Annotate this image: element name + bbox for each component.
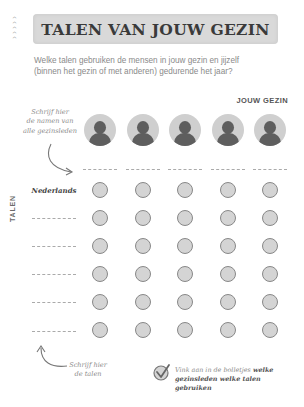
person-body: [89, 133, 111, 146]
person-body: [174, 133, 196, 146]
checkbox-r5-c4[interactable]: [220, 294, 236, 310]
checkbox-r6-c3[interactable]: [177, 322, 193, 338]
page-title: TALEN VAN JOUW GEZIN: [41, 20, 269, 39]
family-member-avatar-2: [127, 114, 159, 146]
checkbox-r2-c5[interactable]: [262, 210, 278, 226]
decorative-chevrons: ^ ^ ^ ^ ^: [12, 16, 18, 41]
checkbox-r1-c4[interactable]: [220, 182, 236, 198]
family-member-avatar-4: [212, 114, 244, 146]
family-member-name-field-3[interactable]: [168, 169, 202, 170]
languages-hint-line-1: Schrijf hier: [66, 361, 110, 370]
checkbox-r4-c1[interactable]: [92, 266, 108, 282]
checkbox-r2-c2[interactable]: [135, 210, 151, 226]
intro-line-1: Welke talen gebruiken de mensen in jouw …: [34, 55, 274, 66]
intro-text: Welke talen gebruiken de mensen in jouw …: [34, 55, 274, 77]
language-field-4[interactable]: [32, 274, 76, 275]
checkbox-r2-c4[interactable]: [220, 210, 236, 226]
instruction-text-part-1: Vink aan in de bolletjes: [175, 366, 253, 374]
checkbox-r1-c3[interactable]: [177, 182, 193, 198]
checkbox-r6-c1[interactable]: [92, 322, 108, 338]
checkbox-r2-c3[interactable]: [177, 210, 193, 226]
languages-axis-label: TALEN: [9, 195, 16, 222]
checkbox-r1-c1[interactable]: [92, 182, 108, 198]
checkbox-r6-c2[interactable]: [135, 322, 151, 338]
person-body: [217, 133, 239, 146]
checkbox-r4-c3[interactable]: [177, 266, 193, 282]
checkbox-r3-c4[interactable]: [220, 238, 236, 254]
checkbox-r5-c2[interactable]: [135, 294, 151, 310]
language-label-1: Nederlands: [30, 186, 78, 195]
family-member-name-field-4[interactable]: [211, 169, 245, 170]
family-column-header: JOUW GEZIN: [236, 96, 288, 105]
checkbox-r6-c4[interactable]: [220, 322, 236, 338]
family-member-avatar-3: [169, 114, 201, 146]
chevron-up-icon: ^: [12, 36, 18, 41]
checkbox-r4-c2[interactable]: [135, 266, 151, 282]
instruction-text: Vink aan in de bolletjes welke gezinsled…: [175, 366, 285, 393]
checkbox-r3-c2[interactable]: [135, 238, 151, 254]
language-field-3[interactable]: [32, 246, 76, 247]
checkbox-r1-c5[interactable]: [262, 182, 278, 198]
person-body: [132, 133, 154, 146]
instruction-text-bold-1: welke: [253, 366, 274, 374]
checkbox-r5-c1[interactable]: [92, 294, 108, 310]
checkbox-r5-c3[interactable]: [177, 294, 193, 310]
language-field-6[interactable]: [32, 331, 76, 332]
curved-arrow-icon: [35, 344, 69, 372]
checkbox-r4-c5[interactable]: [262, 266, 278, 282]
names-hint-line-3: alle gezinsleden: [20, 127, 80, 136]
checkbox-r1-c2[interactable]: [135, 182, 151, 198]
curved-arrow-icon: [43, 142, 77, 178]
checkbox-r5-c5[interactable]: [262, 294, 278, 310]
family-member-name-field-5[interactable]: [253, 169, 287, 170]
family-member-avatar-5: [254, 114, 286, 146]
intro-line-2: (binnen het gezin of met anderen) gedure…: [34, 66, 274, 77]
title-banner: TALEN VAN JOUW GEZIN: [33, 14, 278, 44]
checkbox-r3-c5[interactable]: [262, 238, 278, 254]
names-hint: Schrijf hier de namen van alle gezinsled…: [20, 108, 80, 136]
person-body: [259, 133, 281, 146]
language-field-2[interactable]: [32, 218, 76, 219]
checkbox-r4-c4[interactable]: [220, 266, 236, 282]
languages-hint-line-2: de talen: [66, 370, 110, 379]
family-member-avatar-1: [84, 114, 116, 146]
languages-hint: Schrijf hier de talen: [66, 361, 110, 379]
checkbox-r3-c1[interactable]: [92, 238, 108, 254]
names-hint-line-2: de namen van: [20, 117, 80, 126]
language-field-5[interactable]: [32, 302, 76, 303]
checkbox-r6-c5[interactable]: [262, 322, 278, 338]
names-hint-line-1: Schrijf hier: [20, 108, 80, 117]
checkbox-r2-c1[interactable]: [92, 210, 108, 226]
family-member-name-field-1[interactable]: [83, 169, 117, 170]
checkbox-r3-c3[interactable]: [177, 238, 193, 254]
family-member-name-field-2[interactable]: [126, 169, 160, 170]
instruction-text-bold-2: gezinsleden welke talen gebruiken: [175, 375, 261, 392]
checkmark-circle-icon: [153, 363, 171, 381]
